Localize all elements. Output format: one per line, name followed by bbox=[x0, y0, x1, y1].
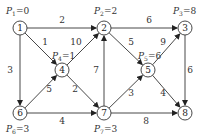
edge-weight-6-4: 5 bbox=[46, 84, 52, 94]
edge-weight-4-2: 10 bbox=[70, 37, 82, 47]
edge-weight-1-2: 2 bbox=[59, 15, 65, 25]
edge-weight-7-8: 8 bbox=[143, 116, 149, 126]
node-label-2: 2 bbox=[101, 23, 107, 33]
graph-diagram: 2131052765964348 1P1=02P2=23P3=84P4=15P5… bbox=[0, 0, 203, 139]
potential-label-1: P1=0 bbox=[5, 6, 29, 17]
node-label-6: 6 bbox=[17, 108, 23, 118]
nodes-layer: 1P1=02P2=23P3=84P4=15P5=66P6=37P7=38 bbox=[5, 6, 196, 135]
node-label-8: 8 bbox=[182, 108, 188, 118]
edge-weight-5-8: 4 bbox=[160, 88, 166, 98]
edge-weight-5-3: 9 bbox=[160, 37, 166, 47]
potential-label-5: P5=6 bbox=[137, 51, 161, 62]
node-label-1: 1 bbox=[17, 23, 23, 33]
potential-label-2: P2=2 bbox=[93, 6, 117, 17]
edge-7-5 bbox=[109, 76, 142, 109]
node-label-7: 7 bbox=[101, 108, 107, 118]
potential-label-3: P3=8 bbox=[172, 6, 196, 17]
node-label-5: 5 bbox=[145, 65, 151, 75]
edge-weight-3-8: 6 bbox=[187, 65, 193, 75]
edge-weight-7-5: 3 bbox=[128, 88, 134, 98]
potential-label-4: P4=1 bbox=[51, 51, 75, 62]
edge-5-8 bbox=[153, 75, 180, 107]
potential-label-7: P7=3 bbox=[93, 124, 117, 135]
edge-weight-2-3: 6 bbox=[146, 15, 152, 25]
edge-weight-7-2: 7 bbox=[93, 65, 99, 75]
edge-weight-1-4: 1 bbox=[42, 37, 48, 47]
edge-weight-6-7: 4 bbox=[59, 116, 65, 126]
edge-weight-1-6: 3 bbox=[7, 65, 13, 75]
node-label-4: 4 bbox=[59, 65, 65, 75]
node-label-3: 3 bbox=[182, 23, 188, 33]
potential-label-6: P6=3 bbox=[5, 124, 29, 135]
graph-canvas: 2131052765964348 1P1=02P2=23P3=84P4=15P5… bbox=[0, 0, 203, 139]
edge-weight-4-7: 2 bbox=[72, 84, 78, 94]
edge-weight-2-5: 5 bbox=[128, 37, 134, 47]
